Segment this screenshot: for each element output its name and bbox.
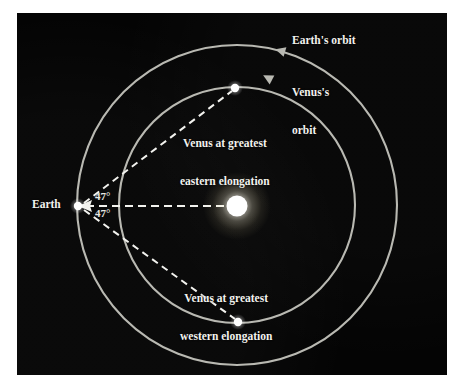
eastern-elongation-angle-label: 47° xyxy=(95,190,110,202)
venus-orbit-label: Venus's orbit xyxy=(292,60,329,163)
venus-orbit-label-line2: orbit xyxy=(292,124,329,137)
venus-orbit-direction-arrow xyxy=(261,71,275,85)
venus-eastern-elongation-label-line1: Venus at greatest xyxy=(180,137,270,150)
venus-western-elongation-label: Venus at greatest western elongation xyxy=(180,266,272,369)
figure-page: Earth's orbit Venus's orbit Earth Venus … xyxy=(0,0,466,389)
venus-eastern-elongation-label: Venus at greatest eastern elongation xyxy=(180,111,270,214)
earth-marker[interactable] xyxy=(74,202,82,210)
venus-western-elongation-label-line1: Venus at greatest xyxy=(180,292,272,305)
venus-orbit-label-line1: Venus's xyxy=(292,86,329,99)
western-elongation-angle-label: 47° xyxy=(95,207,110,219)
venus-eastern-elongation-marker[interactable] xyxy=(231,84,239,92)
venus-western-elongation-label-line2: western elongation xyxy=(180,330,272,343)
earth-orbit-label: Earth's orbit xyxy=(292,34,356,47)
earth-label: Earth xyxy=(32,198,61,211)
venus-eastern-elongation-label-line2: eastern elongation xyxy=(180,175,270,188)
